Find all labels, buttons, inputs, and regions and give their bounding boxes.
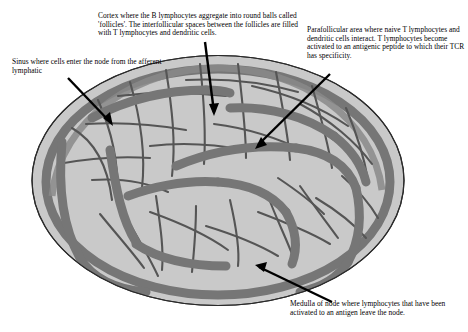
sinus-annotation: Sinus where cells enter the node from th… — [12, 58, 162, 75]
figure-canvas: Cortex where the B lymphocytes aggregate… — [0, 0, 468, 332]
medulla-annotation: Medulla of node where lymphocytes that h… — [290, 300, 462, 317]
cortex-annotation: Cortex where the B lymphocytes aggregate… — [98, 12, 308, 38]
parafollicular-annotation: Parafollicular area where naive T lympho… — [307, 26, 465, 60]
